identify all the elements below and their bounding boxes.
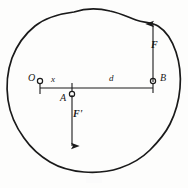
point-label-O: O	[28, 73, 35, 83]
force-label-F: F	[151, 40, 158, 50]
point-label-A: A	[60, 93, 66, 103]
point-label-B: B	[160, 73, 166, 83]
dimension-label-d: d	[109, 74, 114, 83]
dimension-label-x: x	[51, 75, 55, 84]
figure-container: O A B x d F F'	[0, 0, 188, 188]
force-label-F-prime: F'	[73, 109, 82, 119]
diagram-canvas	[0, 0, 188, 188]
point-marker-O	[37, 78, 42, 83]
rigid-body-outline	[7, 9, 180, 172]
page-scan-artifact	[86, 176, 102, 183]
